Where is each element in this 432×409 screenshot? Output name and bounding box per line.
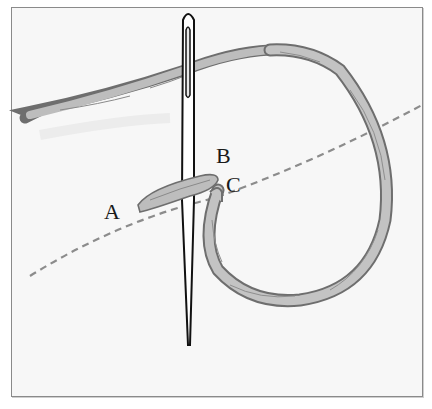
label-c: C <box>226 174 241 196</box>
stitch-segment-ab <box>138 175 218 212</box>
thread-shadow <box>40 118 170 135</box>
stitch-illustration <box>0 0 432 409</box>
needle-eye <box>186 27 190 98</box>
label-a: A <box>104 201 120 223</box>
label-b: B <box>216 145 231 167</box>
